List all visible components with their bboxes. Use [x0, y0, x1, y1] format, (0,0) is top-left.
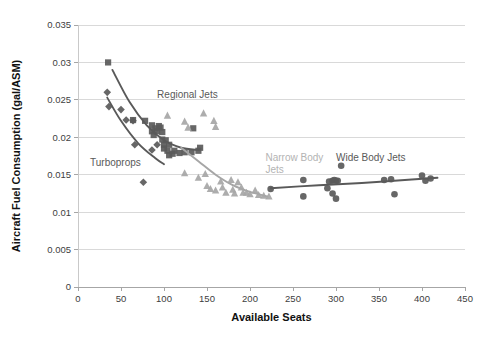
x-tick-label: 0	[75, 293, 80, 304]
data-point-triangle	[210, 117, 217, 124]
data-point-triangle	[164, 112, 171, 119]
data-point-diamond	[140, 178, 148, 186]
data-point-diamond	[103, 89, 111, 97]
x-tick-label: 100	[156, 293, 172, 304]
x-tick-label: 400	[414, 293, 430, 304]
x-tick-label: 450	[457, 293, 473, 304]
chart-canvas: 00.0050.010.0150.020.0250.030.0350501001…	[0, 0, 488, 339]
y-tick-label: 0.015	[47, 169, 71, 180]
y-tick-label: 0.025	[47, 94, 71, 105]
data-point-square	[105, 59, 111, 65]
series-annotation-label: Narrow Body	[265, 152, 323, 163]
data-point-triangle	[234, 178, 241, 185]
x-axis-title: Available Seats	[231, 311, 311, 323]
series-annotation-label: Turboprops	[90, 157, 141, 168]
x-tick-label: 350	[371, 293, 387, 304]
x-tick-label: 150	[199, 293, 215, 304]
data-point-circle	[300, 193, 307, 200]
trend-line-wide-body-jets	[271, 178, 438, 188]
data-point-diamond	[117, 106, 125, 114]
series-annotation-label: Regional Jets	[157, 89, 218, 100]
data-point-square	[159, 129, 165, 135]
x-tick-label: 50	[116, 293, 127, 304]
fuel-consumption-scatter-chart: 00.0050.010.0150.020.0250.030.0350501001…	[0, 0, 488, 339]
data-point-circle	[334, 177, 341, 184]
data-point-circle	[338, 162, 345, 169]
y-tick-label: 0.035	[47, 19, 71, 30]
y-tick-label: 0	[66, 281, 71, 292]
x-tick-label: 300	[328, 293, 344, 304]
series-annotation-label: Jets	[265, 164, 283, 175]
y-tick-label: 0.03	[53, 57, 72, 68]
data-point-circle	[391, 191, 398, 198]
data-point-triangle	[202, 170, 209, 177]
y-tick-label: 0.01	[53, 207, 72, 218]
y-tick-label: 0.02	[53, 132, 72, 143]
x-tick-label: 200	[242, 293, 258, 304]
series-annotation-label: Wide Body Jets	[336, 152, 405, 163]
data-point-triangle	[181, 169, 188, 176]
data-point-square	[130, 117, 136, 123]
data-point-circle	[324, 185, 331, 192]
data-point-circle	[300, 177, 307, 184]
data-point-circle	[333, 195, 340, 202]
data-point-triangle	[181, 118, 188, 125]
x-tick-label: 250	[285, 293, 301, 304]
data-point-diamond	[122, 116, 130, 124]
data-point-triangle	[200, 109, 207, 116]
y-tick-label: 0.005	[47, 244, 71, 255]
y-axis-title: Aircraft Fuel Consumption (gal/ASM)	[10, 59, 22, 252]
